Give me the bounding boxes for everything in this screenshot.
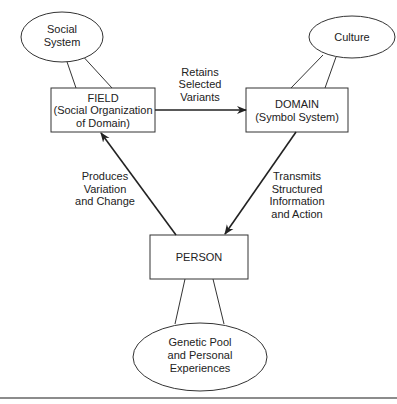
domain-node: DOMAIN (Symbol System) <box>246 88 348 132</box>
transmits-label-3: Information <box>269 195 324 207</box>
social-system-node: Social System <box>21 12 103 62</box>
genetic-pool-label-2: and Personal <box>168 349 233 361</box>
field-label-3: of Domain) <box>76 117 130 129</box>
produces-label-1: Produces <box>82 170 129 182</box>
produces-label-2: Variation <box>84 183 127 195</box>
person-node: PERSON <box>150 235 248 279</box>
transmits-label-1: Transmits <box>273 170 321 182</box>
retains-label-3: Variants <box>180 91 220 103</box>
social-system-label-1: Social <box>47 23 77 35</box>
field-label-1: FIELD <box>87 92 118 104</box>
person-label: PERSON <box>176 251 223 263</box>
retains-label-1: Retains <box>181 66 219 78</box>
genetic-pool-node: Genetic Pool and Personal Experiences <box>133 323 267 391</box>
field-label-2: (Social Organization <box>53 104 152 116</box>
domain-label-1: DOMAIN <box>275 98 319 110</box>
retains-label-2: Selected <box>179 78 222 90</box>
culture-label: Culture <box>334 31 369 43</box>
culture-node: Culture <box>309 16 395 58</box>
produces-label: Produces Variation and Change <box>75 170 135 207</box>
retains-label: Retains Selected Variants <box>179 66 222 103</box>
social-system-label-2: System <box>44 36 81 48</box>
transmits-label-4: and Action <box>271 208 322 220</box>
field-node: FIELD (Social Organization of Domain) <box>51 88 155 132</box>
systems-model-diagram: Social System Culture FIELD (Social Orga… <box>0 0 397 404</box>
genetic-pool-label-3: Experiences <box>170 362 231 374</box>
produces-label-3: and Change <box>75 195 135 207</box>
transmits-label: Transmits Structured Information and Act… <box>269 170 324 220</box>
genetic-pool-label-1: Genetic Pool <box>169 336 232 348</box>
transmits-label-2: Structured <box>272 183 323 195</box>
domain-label-2: (Symbol System) <box>255 111 339 123</box>
